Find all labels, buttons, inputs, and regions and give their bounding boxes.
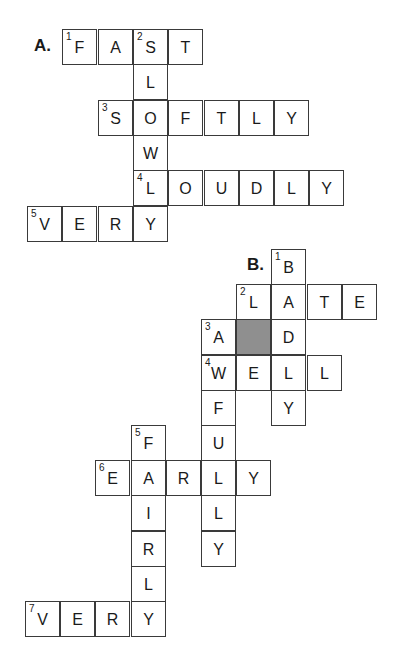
crossword-cell[interactable]: D — [239, 170, 274, 206]
crossword-cell[interactable]: L — [201, 460, 236, 496]
crossword-cell[interactable]: 4W — [201, 355, 236, 391]
crossword-cell[interactable]: L — [239, 100, 274, 136]
crossword-cell[interactable]: 5V — [27, 206, 62, 242]
cell-letter: L — [284, 365, 293, 383]
crossword-cell[interactable]: T — [307, 284, 342, 320]
crossword-cell[interactable]: 2S — [133, 29, 168, 65]
crossword-cell[interactable]: E — [62, 206, 97, 242]
clue-number: 3 — [102, 102, 108, 113]
crossword-cell[interactable]: Y — [201, 531, 236, 567]
crossword-cell[interactable]: 1B — [271, 249, 306, 285]
crossword-cell[interactable]: Y — [131, 601, 166, 637]
cell-letter: E — [248, 365, 259, 383]
clue-number: 6 — [99, 462, 105, 473]
cell-letter: V — [37, 611, 48, 629]
clue-number: 4 — [137, 172, 143, 183]
cell-letter: L — [146, 74, 155, 92]
crossword-cell[interactable]: Y — [309, 170, 344, 206]
crossword-cell[interactable]: A — [131, 460, 166, 496]
cell-letter: Y — [321, 180, 332, 198]
cell-letter: D — [251, 180, 263, 198]
crossword-cell[interactable]: A — [271, 284, 306, 320]
cell-letter: Y — [143, 611, 154, 629]
crossword-cell[interactable]: W — [133, 135, 168, 171]
crossword-cell[interactable]: 3A — [201, 319, 236, 355]
crossword-cell[interactable]: T — [168, 29, 203, 65]
cell-letter: L — [249, 294, 258, 312]
crossword-cell[interactable]: U — [201, 425, 236, 461]
cell-letter: L — [252, 110, 261, 128]
crossword-cell[interactable]: I — [131, 495, 166, 531]
clue-number: 5 — [135, 427, 141, 438]
crossword-cell[interactable]: 1F — [62, 29, 97, 65]
cell-letter: E — [72, 611, 83, 629]
crossword-cell[interactable]: L — [274, 170, 309, 206]
crossword-cell[interactable]: F — [168, 100, 203, 136]
cell-letter: V — [39, 216, 50, 234]
crossword-cell[interactable]: L — [201, 495, 236, 531]
cell-letter: R — [143, 541, 155, 559]
crossword-cell[interactable]: F — [201, 390, 236, 426]
clue-number: 2 — [137, 31, 143, 42]
crossword-cell[interactable]: 7V — [25, 601, 60, 637]
puzzle-label: B. — [247, 255, 264, 275]
crossword-cell[interactable]: E — [236, 355, 271, 391]
cell-letter: L — [146, 180, 155, 198]
cell-letter: A — [283, 294, 294, 312]
cell-letter: R — [178, 470, 190, 488]
crossword-cell[interactable]: E — [342, 284, 377, 320]
cell-letter: S — [145, 39, 156, 57]
cell-letter: W — [143, 145, 158, 163]
cell-letter: L — [144, 576, 153, 594]
crossword-cell[interactable]: O — [133, 100, 168, 136]
clue-number: 5 — [31, 208, 37, 219]
cell-letter: R — [110, 216, 122, 234]
cell-letter: F — [144, 435, 154, 453]
crossword-cell[interactable]: L — [271, 355, 306, 391]
crossword-cell[interactable]: T — [204, 100, 239, 136]
crossword-cell[interactable]: Y — [271, 390, 306, 426]
crossword-cell[interactable]: Y — [274, 100, 309, 136]
cell-letter: A — [213, 329, 224, 347]
crossword-cell[interactable]: A — [98, 29, 133, 65]
crossword-cell[interactable]: R — [131, 531, 166, 567]
crossword-cell[interactable]: L — [133, 64, 168, 100]
crossword-cell[interactable]: 3S — [98, 100, 133, 136]
crossword-cell[interactable]: 6E — [95, 460, 130, 496]
clue-number: 7 — [29, 603, 35, 614]
cell-letter: U — [213, 435, 225, 453]
crossword-cell[interactable]: L — [307, 355, 342, 391]
cell-letter: E — [107, 470, 118, 488]
cell-letter: A — [143, 470, 154, 488]
blocked-cell — [236, 319, 271, 355]
cell-letter: L — [320, 365, 329, 383]
clue-number: 2 — [240, 286, 246, 297]
crossword-cell[interactable]: L — [131, 566, 166, 602]
crossword-cell[interactable]: E — [60, 601, 95, 637]
crossword-cell[interactable]: U — [204, 170, 239, 206]
cell-letter: T — [181, 39, 191, 57]
crossword-cell[interactable]: D — [271, 319, 306, 355]
crossword-cell[interactable]: R — [98, 206, 133, 242]
clue-number: 1 — [66, 31, 72, 42]
crossword-cell[interactable]: 5F — [131, 425, 166, 461]
crossword-cell[interactable]: Y — [236, 460, 271, 496]
cell-letter: A — [110, 39, 121, 57]
cell-letter: I — [146, 505, 150, 523]
cell-letter: F — [181, 110, 191, 128]
cell-letter: R — [107, 611, 119, 629]
cell-letter: O — [179, 180, 191, 198]
crossword-cell[interactable]: 4L — [133, 170, 168, 206]
crossword-cell[interactable]: R — [95, 601, 130, 637]
cell-letter: S — [110, 110, 121, 128]
crossword-cell[interactable]: R — [166, 460, 201, 496]
crossword-cell[interactable]: O — [168, 170, 203, 206]
cell-letter: T — [320, 294, 330, 312]
cell-letter: D — [283, 329, 295, 347]
cell-letter: Y — [145, 216, 156, 234]
puzzle-label: A. — [34, 36, 51, 56]
crossword-cell[interactable]: 2L — [236, 284, 271, 320]
crossword-cell[interactable]: Y — [133, 206, 168, 242]
clue-number: 3 — [205, 321, 211, 332]
cell-letter: F — [214, 400, 224, 418]
